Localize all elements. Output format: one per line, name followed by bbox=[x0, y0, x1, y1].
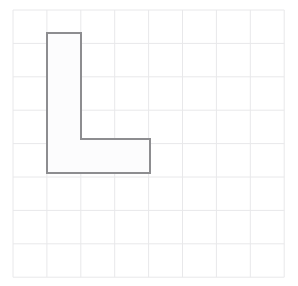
figure-canvas bbox=[0, 0, 298, 286]
grid-and-shape-svg bbox=[0, 0, 298, 286]
